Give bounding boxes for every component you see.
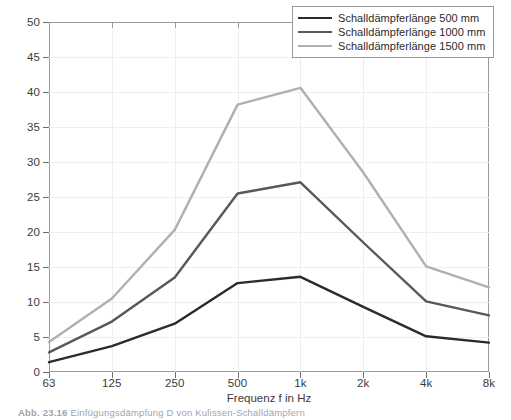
x-axis-tick-label: 125 — [102, 377, 122, 389]
y-axis-tick-label: 5 — [34, 331, 41, 343]
legend-line-swatch — [298, 17, 332, 19]
chart-plot-area: 05101520253035404550 631252505001k2k4k8k — [49, 22, 489, 372]
x-axis-tick-label: 1k — [294, 377, 306, 389]
legend-item-label: Schalldämpferlänge 1500 mm — [338, 40, 485, 52]
x-axis-tick-label: 8k — [483, 377, 495, 389]
caption-text: Einfügungsdämpfung D von Kulissen-Schall… — [70, 407, 305, 418]
x-axis-tick-label: 4k — [420, 377, 432, 389]
legend-line-swatch — [298, 31, 332, 33]
y-axis-tick-label: 50 — [27, 16, 40, 28]
y-axis-tick-label: 0 — [34, 366, 41, 378]
y-axis-tick-label: 35 — [27, 121, 40, 133]
y-axis-tick-label: 45 — [27, 51, 40, 63]
legend-item[interactable]: Schalldämpferlänge 1000 mm — [298, 25, 485, 39]
y-axis-tick-label: 20 — [27, 226, 40, 238]
figure-container: 05101520253035404550 631252505001k2k4k8k… — [0, 0, 511, 420]
chart-legend: Schalldämpferlänge 500 mmSchalldämpferlä… — [292, 6, 494, 58]
y-axis-tick-label: 25 — [27, 191, 40, 203]
legend-item[interactable]: Schalldämpferlänge 500 mm — [298, 11, 485, 25]
legend-item-label: Schalldämpferlänge 1000 mm — [338, 26, 485, 38]
y-axis-tick-label: 30 — [27, 156, 40, 168]
data-series-layer — [49, 22, 489, 372]
y-axis-tick-label: 40 — [27, 86, 40, 98]
x-axis-tick-label: 63 — [43, 377, 56, 389]
figure-caption: Abb. 23.16 Einfügungsdämpfung D von Kuli… — [18, 407, 305, 418]
legend-item[interactable]: Schalldämpferlänge 1500 mm — [298, 39, 485, 53]
y-axis-tick-label: 10 — [27, 296, 40, 308]
legend-item-label: Schalldämpferlänge 500 mm — [338, 12, 479, 24]
x-axis-tick-label: 2k — [357, 377, 369, 389]
x-axis-tick-label: 500 — [228, 377, 248, 389]
caption-number: Abb. 23.16 — [18, 407, 68, 418]
legend-line-swatch — [298, 45, 332, 47]
series-line-3 — [49, 88, 489, 342]
y-axis-tick-label: 15 — [27, 261, 40, 273]
x-axis-title: Frequenz f in Hz — [49, 392, 489, 404]
series-line-2 — [49, 182, 489, 352]
x-axis-tick-label: 250 — [165, 377, 185, 389]
